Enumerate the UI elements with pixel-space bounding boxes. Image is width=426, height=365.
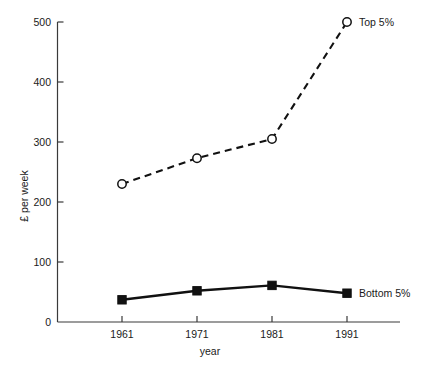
series-label-top-5-percent: Top 5% xyxy=(359,16,394,28)
series-label-bottom-5-percent: Bottom 5% xyxy=(359,287,410,299)
data-point-top-1981 xyxy=(268,135,276,143)
series-top-5-percent xyxy=(118,18,351,188)
x-tick-label-1981: 1981 xyxy=(260,328,284,340)
data-point-bottom-1971 xyxy=(193,287,201,295)
data-point-bottom-1961 xyxy=(118,296,126,304)
x-tick-label-1961: 1961 xyxy=(110,328,134,340)
y-tick-label-500: 500 xyxy=(33,16,51,28)
series-line-top-5-percent xyxy=(122,22,347,184)
data-point-top-1991 xyxy=(343,18,351,26)
chart-container: 500 400 300 200 100 0 1961 1971 1981 199… xyxy=(0,0,426,365)
series-line-bottom-5-percent xyxy=(122,285,347,299)
x-tick-label-1971: 1971 xyxy=(185,328,209,340)
data-point-top-1971 xyxy=(193,154,201,162)
y-axis-ticks xyxy=(58,22,64,262)
x-axis-ticks xyxy=(122,316,347,322)
y-tick-label-200: 200 xyxy=(33,196,51,208)
data-point-top-1961 xyxy=(118,180,126,188)
x-axis-title: year xyxy=(200,345,221,357)
x-tick-label-1991: 1991 xyxy=(335,328,359,340)
y-tick-label-100: 100 xyxy=(33,256,51,268)
data-point-bottom-1981 xyxy=(268,281,276,289)
series-bottom-5-percent xyxy=(118,281,351,304)
line-chart: 500 400 300 200 100 0 1961 1971 1981 199… xyxy=(0,0,426,365)
y-axis-title: £ per week xyxy=(18,170,30,222)
y-tick-label-0: 0 xyxy=(45,316,51,328)
y-tick-label-300: 300 xyxy=(33,136,51,148)
data-point-bottom-1991 xyxy=(343,289,351,297)
y-tick-label-400: 400 xyxy=(33,76,51,88)
